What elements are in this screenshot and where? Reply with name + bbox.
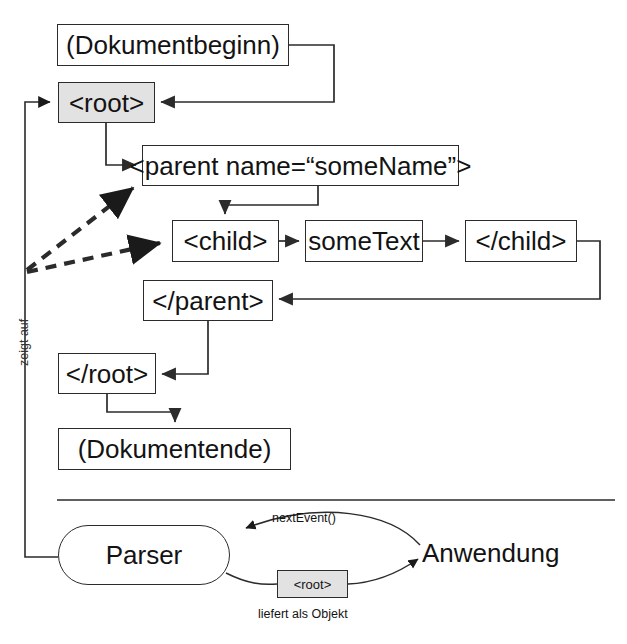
edge-parent-to-child xyxy=(225,186,318,214)
label-next-event: nextEvent() xyxy=(272,512,336,525)
node-root-close-label: </root> xyxy=(66,361,148,387)
label-anwendung: Anwendung xyxy=(422,540,559,566)
node-root-open-label: <root> xyxy=(69,90,144,116)
node-child-open-label: <child> xyxy=(184,228,268,254)
edge-cursor-to-parent-dashed xyxy=(27,188,133,270)
node-parser-label: Parser xyxy=(106,542,183,568)
node-document-start[interactable]: (Dokumentbeginn) xyxy=(57,24,289,66)
node-some-text[interactable]: someText xyxy=(305,220,423,262)
edge-parentclose-to-rootclose xyxy=(162,321,208,374)
node-root-close[interactable]: </root> xyxy=(58,353,156,394)
node-document-start-label: (Dokumentbeginn) xyxy=(66,32,280,58)
node-root-object[interactable]: <root> xyxy=(277,570,348,598)
node-parent-close[interactable]: </parent> xyxy=(143,280,273,321)
edge-rootclose-to-docend xyxy=(107,394,175,422)
node-document-end[interactable]: (Dokumentende) xyxy=(58,428,291,470)
node-parent-open[interactable]: <parent name=“someName”> xyxy=(142,145,459,186)
edge-cursor-to-child-dashed xyxy=(27,243,160,272)
node-root-open[interactable]: <root> xyxy=(58,82,155,123)
node-parent-open-label: <parent name=“someName”> xyxy=(130,153,472,179)
node-document-end-label: (Dokumentende) xyxy=(78,436,272,462)
node-child-open[interactable]: <child> xyxy=(172,220,279,262)
node-child-close[interactable]: </child> xyxy=(465,220,577,262)
node-some-text-label: someText xyxy=(308,228,419,254)
node-child-close-label: </child> xyxy=(475,228,566,254)
node-parser[interactable]: Parser xyxy=(58,525,230,585)
node-root-object-label: <root> xyxy=(294,578,332,591)
edge-parser-to-rootobject xyxy=(226,573,277,584)
label-liefert-als-objekt: liefert als Objekt xyxy=(258,608,348,621)
node-parent-close-label: </parent> xyxy=(152,288,263,314)
label-zeigt-auf: zeigt auf xyxy=(18,319,31,366)
edge-rootobject-to-app xyxy=(348,559,418,584)
stax-parser-diagram: (Dokumentbeginn) <root> <parent name=“so… xyxy=(0,0,627,644)
